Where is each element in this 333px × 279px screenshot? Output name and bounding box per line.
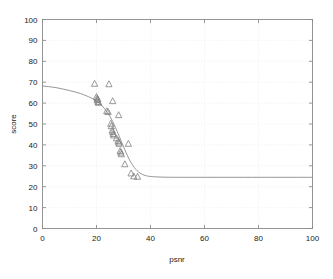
data-point-marker [128,170,134,176]
x-tick-label: 60 [200,234,209,243]
y-tick-label: 90 [29,36,38,45]
x-tick-label: 0 [40,234,45,243]
x-tick-label: 40 [146,234,155,243]
y-tick-label: 100 [24,16,38,25]
y-tick-label: 30 [29,162,38,171]
y-tick-label: 50 [29,120,38,129]
scatter-plot: 0102030405060708090100020406080100 psnr … [0,0,333,279]
x-axis-title: psnr [169,255,185,264]
x-tick-label: 20 [92,234,101,243]
y-tick-label: 80 [29,57,38,66]
x-tick-label: 100 [306,234,320,243]
grid-lines [43,20,313,229]
y-axis-title: score [9,114,18,134]
data-point-marker [116,112,122,118]
y-tick-label: 20 [29,183,38,192]
x-tick-label: 80 [254,234,263,243]
axis-tick-labels: 0102030405060708090100020406080100 [24,16,320,243]
fitted-curve [43,86,313,177]
y-tick-label: 40 [29,141,38,150]
y-tick-label: 70 [29,78,38,87]
fit-curve-path [43,86,313,177]
data-point-marker [125,140,131,146]
data-point-marker [106,81,112,87]
y-tick-label: 0 [33,225,38,234]
y-tick-label: 10 [29,204,38,213]
y-tick-label: 60 [29,99,38,108]
figure-container: 0102030405060708090100020406080100 psnr … [0,0,333,279]
